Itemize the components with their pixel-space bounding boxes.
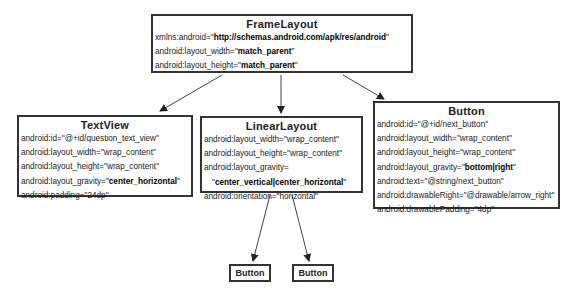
attr-row: android:id="@+id/next_button" xyxy=(375,118,558,132)
attr-row: android:layout_gravity= xyxy=(202,161,361,175)
node-framelayout: FrameLayout xmlns:android="http://schema… xyxy=(151,14,413,73)
attr-row: android:id="@+id/question_text_view" xyxy=(19,132,191,146)
attr-row: android:layout_height="wrap_content" xyxy=(375,146,558,160)
attr-list: android:id="@+id/next_button"android:lay… xyxy=(375,118,558,217)
edge-linear-to-button1 xyxy=(253,195,270,261)
attr-row: android:layout_width="wrap_content" xyxy=(202,133,361,147)
edge-linear-to-button2 xyxy=(292,195,309,261)
edge-frame-to-button xyxy=(343,75,384,99)
attr-list: android:id="@+id/question_text_view"andr… xyxy=(19,132,191,203)
attr-row: android:layout_width="wrap_content" xyxy=(375,132,558,146)
node-title: LinearLayout xyxy=(202,120,361,133)
node-title: Button xyxy=(375,105,558,118)
attr-row: android:layout_height="match_parent" xyxy=(153,59,411,73)
node-linearlayout: LinearLayout android:layout_width="wrap_… xyxy=(200,116,363,193)
edge-frame-to-textview xyxy=(160,75,222,111)
attr-row: android:drawableRight="@drawable/arrow_r… xyxy=(375,189,558,203)
attr-row: android:drawablePadding="4dp" xyxy=(375,203,558,217)
node-textview: TextView android:id="@+id/question_text_… xyxy=(17,115,193,197)
attr-row: android:layout_height="wrap_content" xyxy=(19,160,191,174)
attr-row: android:layout_gravity="center_horizonta… xyxy=(19,175,191,189)
attr-row: android:orientation="horizontal" xyxy=(202,190,361,204)
node-title: TextView xyxy=(19,119,191,132)
node-child-button-1: Button xyxy=(229,264,271,282)
attr-list: xmlns:android="http://schemas.android.co… xyxy=(153,31,411,74)
attr-row: android:layout_gravity="bottom|right" xyxy=(375,161,558,175)
attr-row: android:layout_width="wrap_content" xyxy=(19,146,191,160)
attr-list: android:layout_width="wrap_content"andro… xyxy=(202,133,361,204)
attr-row: android:padding="24dp" xyxy=(19,189,191,203)
node-child-button-2: Button xyxy=(292,264,334,282)
attr-row: android:text="@string/next_button" xyxy=(375,175,558,189)
node-title: FrameLayout xyxy=(153,18,411,31)
attr-row: android:layout_height="wrap_content" xyxy=(202,147,361,161)
node-button: Button android:id="@+id/next_button"andr… xyxy=(373,101,560,209)
attr-row: android:layout_width="match_parent" xyxy=(153,45,411,59)
attr-row: xmlns:android="http://schemas.android.co… xyxy=(153,31,411,45)
attr-row: "center_vertical|center_horizontal" xyxy=(202,176,361,190)
